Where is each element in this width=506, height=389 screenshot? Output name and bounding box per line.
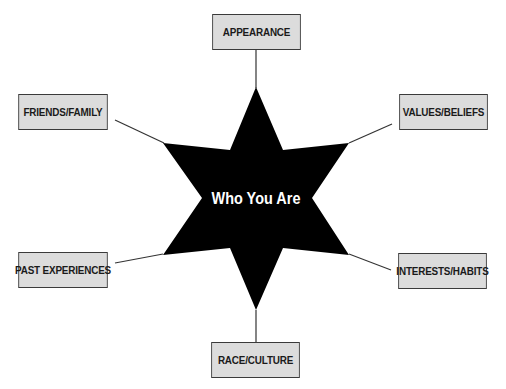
node-appearance: APPEARANCE <box>212 14 301 50</box>
center-label: Who You Are <box>197 186 316 212</box>
connector-values-beliefs <box>349 124 392 143</box>
node-label: VALUES/BELIEFS <box>403 106 484 118</box>
connector-friends-family <box>115 120 164 143</box>
node-interests-habits: INTERESTS/HABITS <box>398 253 487 289</box>
node-label: PAST EXPERIENCES <box>15 264 111 276</box>
connector-interests-habits <box>349 254 391 270</box>
node-race-culture: RACE/CULTURE <box>211 342 300 378</box>
node-label: INTERESTS/HABITS <box>396 265 488 277</box>
node-past-experiences: PAST EXPERIENCES <box>18 252 107 288</box>
node-label: RACE/CULTURE <box>218 354 293 366</box>
node-label: FRIENDS/FAMILY <box>23 106 102 118</box>
node-values-beliefs: VALUES/BELIEFS <box>399 94 488 130</box>
node-friends-family: FRIENDS/FAMILY <box>18 94 107 130</box>
identity-diagram: Who You Are APPEARANCE FRIENDS/FAMILY VA… <box>0 0 506 389</box>
node-label: APPEARANCE <box>223 26 291 38</box>
connector-past-experiences <box>115 254 163 263</box>
